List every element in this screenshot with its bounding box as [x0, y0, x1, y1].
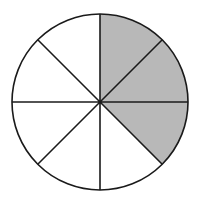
- center-point: [98, 100, 101, 103]
- fraction-circle-figure: [0, 0, 200, 201]
- fraction-circle-diagram: [0, 0, 200, 201]
